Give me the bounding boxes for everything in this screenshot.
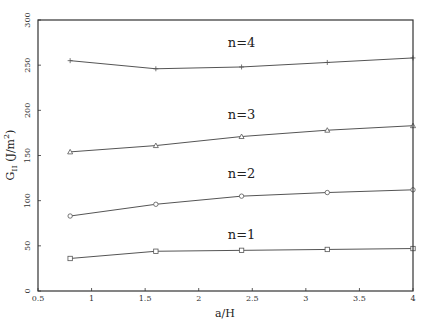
- y-tick-label: 50: [23, 241, 32, 251]
- circle-marker-icon: [325, 190, 329, 194]
- x-tick-label: 2.5: [246, 294, 259, 303]
- y-axis-label: GII (J/m2): [2, 130, 19, 181]
- circle-marker-icon: [154, 202, 158, 206]
- x-tick-label: 4: [410, 294, 415, 303]
- circle-marker-icon: [68, 214, 72, 218]
- square-marker-icon: [154, 249, 158, 253]
- x-tick-label: 3: [303, 294, 308, 303]
- plus-marker-icon: [68, 58, 73, 63]
- y-tick-label: 150: [23, 148, 32, 163]
- series-n-1: [68, 246, 415, 260]
- square-marker-icon: [239, 248, 243, 252]
- series-annotation: n=1: [228, 227, 256, 242]
- x-tick-label: 3.5: [353, 294, 366, 303]
- series-annotation: n=2: [228, 166, 256, 181]
- y-tick-label: 0: [23, 288, 32, 293]
- axis-ticks: 0.511.522.533.54050100150200250300: [23, 12, 416, 303]
- square-marker-icon: [325, 247, 329, 251]
- x-tick-label: 1.5: [139, 294, 152, 303]
- x-tick-label: 1: [89, 294, 94, 303]
- series-annotation: n=3: [228, 107, 256, 122]
- series-n-3: [68, 123, 416, 154]
- plus-marker-icon: [239, 64, 244, 69]
- square-marker-icon: [68, 256, 72, 260]
- y-tick-label: 100: [23, 193, 32, 208]
- y-tick-label: 250: [23, 58, 32, 73]
- circle-marker-icon: [239, 194, 243, 198]
- series-n-2: [68, 188, 415, 219]
- series-group: n=4n=3n=2n=1: [68, 35, 416, 261]
- line-chart: GII (J/m2) 0.511.522.533.540501001502002…: [0, 0, 425, 328]
- y-tick-label: 200: [23, 103, 32, 118]
- x-tick-label: 2: [196, 294, 201, 303]
- plus-marker-icon: [325, 60, 330, 65]
- x-axis-label: a/H: [215, 307, 235, 320]
- plus-marker-icon: [153, 66, 158, 71]
- y-axis-label-text: GII (J/m2): [2, 130, 19, 181]
- y-tick-label: 300: [23, 12, 32, 27]
- series-annotation: n=4: [228, 35, 256, 50]
- x-tick-label: 0.5: [32, 294, 45, 303]
- series-n-4: [68, 55, 416, 71]
